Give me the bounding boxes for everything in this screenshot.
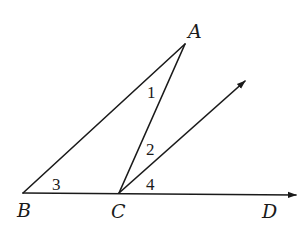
point-label-d: D	[261, 200, 277, 222]
ray-ce	[119, 81, 245, 193]
point-label-b: B	[16, 199, 31, 221]
geometry-diagram: A B C D 1 2 3 4	[0, 0, 304, 225]
point-label-a: A	[186, 20, 202, 42]
ray-bd	[23, 193, 296, 195]
angle-label-2: 2	[146, 140, 155, 159]
angle-label-3: 3	[52, 175, 61, 194]
angle-label-4: 4	[146, 175, 155, 194]
angle-label-1: 1	[147, 83, 156, 102]
point-label-c: C	[111, 200, 126, 222]
segment-ab	[23, 44, 185, 193]
segment-ac	[119, 44, 185, 193]
